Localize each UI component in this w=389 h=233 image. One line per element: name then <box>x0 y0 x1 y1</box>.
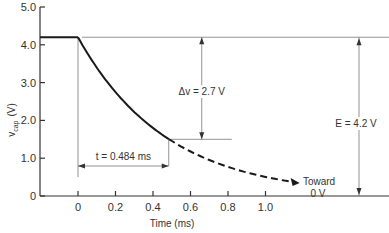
arrowhead-down-icon <box>199 132 204 139</box>
arrowhead-right-icon <box>162 164 169 169</box>
x-tick-label: 0 <box>75 201 81 213</box>
arrowhead-up-icon <box>357 38 362 45</box>
y-tick-label: 5.0 <box>21 1 36 13</box>
x-tick-label: 1.0 <box>258 201 273 213</box>
x-tick-label: 0.4 <box>145 201 160 213</box>
discharge-curve-dashed <box>169 139 294 182</box>
y-ticks: 01.02.03.04.05.0 <box>21 1 45 202</box>
y-axis-title-sub: cap <box>12 120 20 131</box>
capacitor-discharge-chart: 01.02.03.04.05.0 00.20.40.60.81.0 vcap(V… <box>0 0 389 233</box>
x-tick-label: 0.2 <box>108 201 123 213</box>
delta-v-label: Δv = 2.7 V <box>179 86 226 97</box>
x-ticks: 00.20.40.60.81.0 <box>75 191 273 213</box>
arrowheads <box>78 37 362 195</box>
toward-label-line1: Toward <box>303 176 335 187</box>
elapsed-time-label: t = 0.484 ms <box>96 151 151 162</box>
arrowhead-left-icon <box>78 164 85 169</box>
x-tick-label: 0.8 <box>220 201 235 213</box>
y-tick-label: 2.0 <box>21 114 36 126</box>
axes <box>40 7 389 196</box>
y-tick-label: 4.0 <box>21 39 36 51</box>
y-tick-label: 3.0 <box>21 77 36 89</box>
x-tick-label: 0.6 <box>183 201 198 213</box>
y-axis-title: vcap(V) <box>6 103 20 137</box>
dimension-arrows <box>78 37 362 196</box>
source-voltage-label: E = 4.2 V <box>335 118 377 129</box>
discharge-curve-solid <box>78 37 169 139</box>
toward-arrowhead-icon <box>291 178 300 186</box>
y-axis-title-unit: (V) <box>6 103 17 116</box>
toward-label-line2: 0 V <box>310 188 325 199</box>
x-axis-title: Time (ms) <box>150 218 195 229</box>
y-tick-label: 0 <box>30 190 36 202</box>
y-tick-label: 1.0 <box>21 152 36 164</box>
arrowhead-up-icon <box>199 37 204 44</box>
arrowhead-down-icon <box>357 188 362 195</box>
